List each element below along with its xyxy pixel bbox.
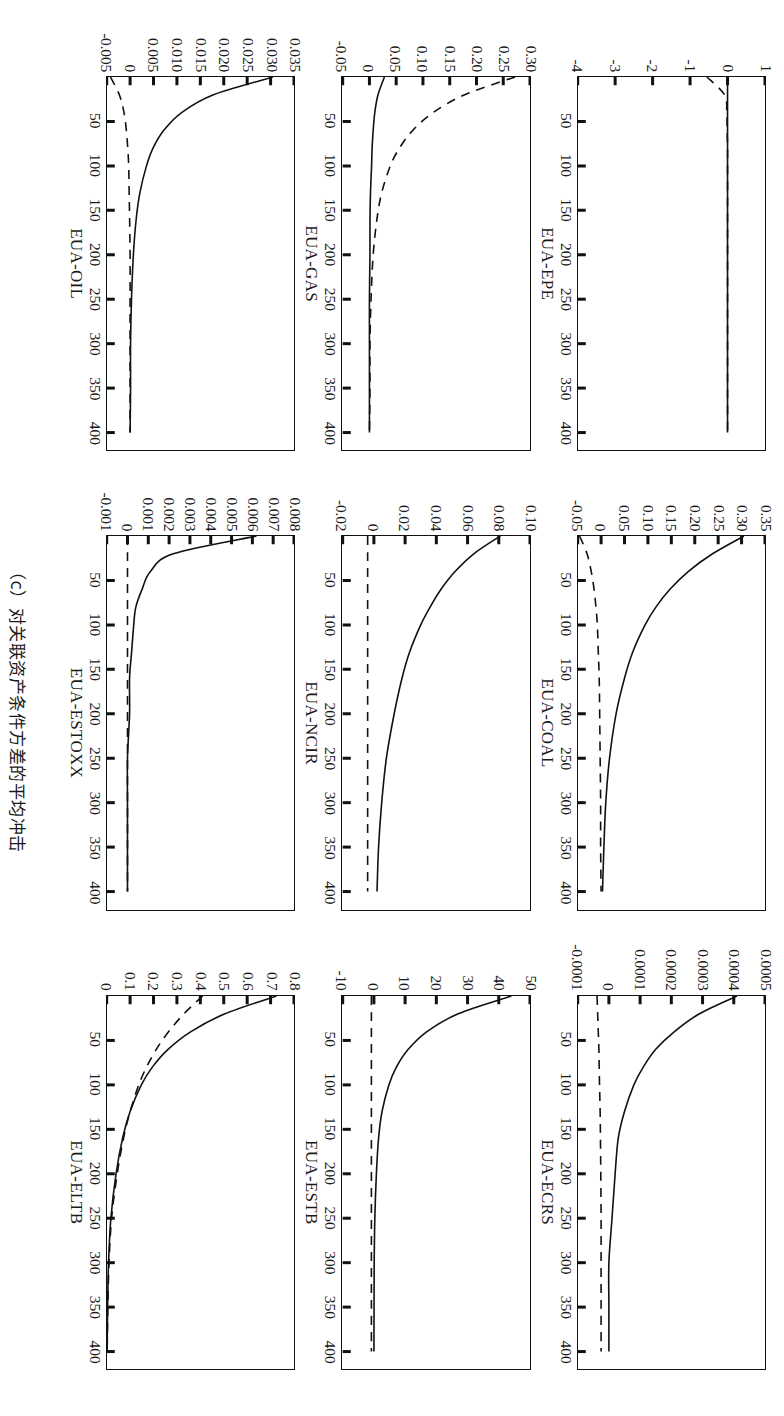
- y-tick-label: 0.006: [244, 497, 262, 531]
- panel-eua-oil: 0.0350.0300.0250.0200.0150.0100.0050-0.0…: [66, 18, 295, 451]
- x-axis: 50100150200250300350400EUA-GAS: [301, 76, 341, 451]
- x-tick-label: 250: [557, 288, 575, 311]
- y-axis: 0.0350.0300.0250.0200.0150.0100.0050-0.0…: [106, 18, 295, 76]
- y-tick-label: 0: [359, 64, 377, 72]
- y-tick-label: 10: [395, 976, 413, 991]
- figure-stage: 10-1-2-3-450100150200250300350400EUA-EPE…: [0, 0, 784, 1416]
- y-tick-label: 0.20: [686, 505, 704, 531]
- x-tick-label: 400: [86, 422, 104, 445]
- x-tick-label: 150: [86, 198, 104, 221]
- y-tick-label: 0.20: [468, 46, 486, 72]
- plot-area: [577, 535, 766, 910]
- panel-title: EUA-NCIR: [301, 681, 321, 765]
- x-tick-label: 350: [321, 836, 339, 859]
- x-tick-label: 300: [321, 792, 339, 815]
- x-tick-label: 200: [86, 243, 104, 266]
- y-tick-label: 0.005: [223, 497, 241, 531]
- plot-area: [577, 76, 766, 451]
- x-tick-label: 250: [321, 288, 339, 311]
- x-tick-label: 400: [557, 881, 575, 904]
- y-tick-label: 0.5: [215, 972, 233, 991]
- y-tick-label: 20: [427, 976, 445, 991]
- y-tick-label: -0.005: [97, 33, 115, 72]
- x-tick-label: 300: [86, 332, 104, 355]
- y-tick-label: -10: [332, 971, 350, 991]
- x-tick-label: 300: [321, 1251, 339, 1274]
- x-tick-label: 300: [86, 792, 104, 815]
- x-tick-label: 100: [557, 613, 575, 636]
- y-tick-label: 30: [459, 976, 477, 991]
- x-tick-label: 150: [321, 658, 339, 681]
- y-tick-label: 0.8: [286, 972, 304, 991]
- panel-title: EUA-ESTB: [301, 1140, 321, 1225]
- y-tick-label: -0.0001: [568, 944, 586, 990]
- y-tick-label: 0.007: [265, 497, 283, 531]
- y-tick-label: 0.005: [144, 38, 162, 72]
- y-tick-label: 0.4: [192, 972, 210, 991]
- x-tick-label: 350: [86, 1296, 104, 1319]
- y-tick-label: -0.05: [568, 500, 586, 531]
- x-tick-label: 150: [321, 198, 339, 221]
- x-tick-label: 250: [86, 747, 104, 770]
- y-axis: 0.0080.0070.0060.0050.0040.0030.0020.001…: [106, 477, 295, 535]
- y-tick-label: 0: [599, 983, 617, 991]
- x-tick-label: 100: [86, 154, 104, 177]
- y-tick-label: 0.06: [459, 505, 477, 531]
- x-tick-label: 100: [557, 1072, 575, 1095]
- x-tick-label: 150: [86, 658, 104, 681]
- x-tick-label: 400: [321, 881, 339, 904]
- y-axis: 10-1-2-3-4: [577, 18, 766, 76]
- x-axis: 50100150200250300350400EUA-NCIR: [301, 535, 341, 910]
- x-tick-label: 200: [557, 702, 575, 725]
- y-tick-label: 0.025: [239, 38, 257, 72]
- x-tick-label: 200: [321, 702, 339, 725]
- plot-area: [341, 535, 530, 910]
- y-tick-label: 0: [591, 524, 609, 532]
- plot-area: [106, 995, 295, 1370]
- y-tick-label: 0.0003: [694, 949, 712, 990]
- y-tick-label: 0: [118, 524, 136, 532]
- x-tick-label: 150: [557, 1117, 575, 1140]
- x-tick-label: 50: [321, 572, 339, 588]
- panel-eua-gas: 0.300.250.200.150.100.050-0.055010015020…: [301, 18, 530, 451]
- y-tick-label: 0.05: [386, 46, 404, 72]
- plot-frame: [106, 535, 295, 910]
- y-tick-label: 0.1: [121, 972, 139, 991]
- x-tick-label: 400: [86, 881, 104, 904]
- y-tick-label: 0.08: [490, 505, 508, 531]
- x-tick-label: 250: [321, 747, 339, 770]
- plot-frame: [577, 535, 766, 910]
- y-tick-label: 0.030: [263, 38, 281, 72]
- x-tick-label: 350: [86, 836, 104, 859]
- x-tick-label: 100: [321, 613, 339, 636]
- x-tick-label: 50: [86, 1032, 104, 1048]
- plot-frame: [577, 76, 766, 451]
- y-axis: 0.350.300.250.200.150.100.050-0.05: [577, 477, 766, 535]
- x-tick-label: 200: [321, 243, 339, 266]
- x-tick-label: 100: [86, 1072, 104, 1095]
- x-axis: 50100150200250300350400EUA-ECRS: [537, 995, 577, 1370]
- y-tick-label: 0.10: [522, 505, 540, 531]
- x-tick-label: 50: [86, 113, 104, 129]
- x-tick-label: 300: [86, 1251, 104, 1274]
- y-tick-label: 0.6: [239, 972, 257, 991]
- y-tick-label: 0.015: [192, 38, 210, 72]
- x-tick-label: 150: [321, 1117, 339, 1140]
- x-tick-label: 250: [86, 288, 104, 311]
- x-tick-label: 400: [321, 422, 339, 445]
- y-tick-label: 0.25: [710, 505, 728, 531]
- y-tick-label: -0.02: [332, 500, 350, 531]
- plot-frame: [577, 995, 766, 1370]
- x-axis: 50100150200250300350400EUA-EPE: [537, 76, 577, 451]
- x-tick-label: 50: [557, 113, 575, 129]
- x-tick-label: 50: [86, 572, 104, 588]
- y-axis: 0.00050.00040.00030.00020.00010-0.0001: [577, 937, 766, 995]
- panel-eua-coal: 0.350.300.250.200.150.100.050-0.05501001…: [537, 477, 766, 910]
- y-axis: 0.100.080.060.040.020-0.02: [341, 477, 530, 535]
- plot-frame: [106, 76, 295, 451]
- y-tick-label: -2: [643, 59, 661, 72]
- y-tick-label: 0.35: [757, 505, 775, 531]
- plot-area: [106, 535, 295, 910]
- x-tick-label: 350: [557, 1296, 575, 1319]
- panel-title: EUA-ESTOXX: [66, 668, 86, 778]
